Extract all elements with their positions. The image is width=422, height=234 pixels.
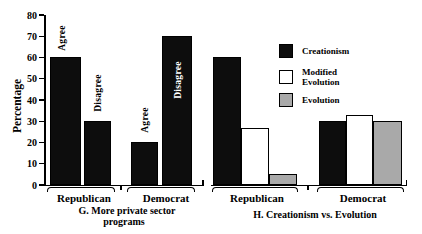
group-label-g-democrat: Democrat bbox=[143, 192, 189, 204]
bar-h-republican-creationism bbox=[213, 57, 241, 185]
y-tick-label-80: 80 bbox=[11, 11, 37, 21]
y-tick-mark-60 bbox=[39, 57, 44, 58]
bar-label-republican-disagree: Disagree bbox=[93, 74, 103, 112]
bar-label-democrat-disagree: Disagree bbox=[173, 61, 183, 99]
legend-swatch-creationism bbox=[279, 44, 293, 58]
y-tick-mark-10 bbox=[39, 163, 44, 164]
bar-chart-figure: Percentage 01020304050607080 Agree Disag… bbox=[0, 0, 422, 234]
legend-row-creationism: Creationism bbox=[279, 44, 349, 58]
bar-h-democrat-evolution bbox=[373, 121, 402, 185]
bar-h-republican-evolution bbox=[269, 174, 297, 185]
group-label-h-democrat: Democrat bbox=[340, 192, 386, 204]
y-tick-label-60: 60 bbox=[11, 53, 37, 63]
bar-h-democrat-creationism bbox=[319, 121, 346, 185]
legend-swatch-evolution bbox=[279, 93, 293, 107]
axis-end-tick-right-panel bbox=[406, 180, 408, 186]
panel-g-title-line2: programs bbox=[103, 216, 144, 227]
group-separator-tick-left-panel bbox=[120, 185, 122, 190]
group-label-h-republican: Republican bbox=[230, 192, 284, 204]
y-tick-label-70: 70 bbox=[11, 32, 37, 42]
bar-g-republican-disagree bbox=[84, 121, 111, 185]
axis-end-tick-left-panel bbox=[202, 180, 204, 186]
legend-row-evolution: Evolution bbox=[279, 93, 340, 107]
y-tick-mark-80 bbox=[39, 14, 44, 15]
y-tick-label-40: 40 bbox=[11, 96, 37, 106]
legend-label: ModifiedEvolution bbox=[302, 67, 340, 87]
bar-label-democrat-agree: Agree bbox=[140, 107, 150, 133]
y-tick-mark-50 bbox=[39, 78, 44, 79]
y-tick-label-10: 10 bbox=[11, 159, 37, 169]
bar-g-republican-agree bbox=[50, 57, 81, 185]
bar-label-republican-agree: Agree bbox=[57, 25, 67, 51]
y-tick-mark-70 bbox=[39, 36, 44, 37]
y-tick-mark-30 bbox=[39, 121, 44, 122]
y-tick-label-20: 20 bbox=[11, 138, 37, 148]
y-tick-label-0: 0 bbox=[11, 181, 37, 191]
y-axis-line bbox=[44, 15, 46, 186]
legend-swatch-modified-evolution bbox=[279, 70, 293, 84]
bar-h-democrat-modified-evolution bbox=[346, 115, 373, 185]
group-separator-tick-right-panel bbox=[307, 185, 309, 190]
bar-h-republican-modified-evolution bbox=[241, 128, 269, 185]
bar-g-democrat-disagree bbox=[162, 36, 192, 185]
group-label-g-republican: Republican bbox=[57, 192, 111, 204]
bar-g-democrat-agree bbox=[131, 142, 158, 185]
panel-h-title: H. Creationism vs. Evolution bbox=[253, 209, 376, 220]
legend-label: Evolution bbox=[302, 95, 340, 105]
y-tick-mark-40 bbox=[39, 99, 44, 100]
legend-row-modified-evolution: ModifiedEvolution bbox=[279, 67, 340, 87]
legend-label: Creationism bbox=[302, 46, 349, 56]
y-tick-label-30: 30 bbox=[11, 117, 37, 127]
panel-g-title-line1: G. More private sector bbox=[79, 205, 176, 216]
y-tick-mark-20 bbox=[39, 142, 44, 143]
y-tick-label-50: 50 bbox=[11, 74, 37, 84]
